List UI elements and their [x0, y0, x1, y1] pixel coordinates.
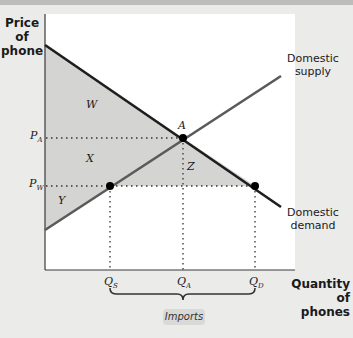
price-pa-label: PA	[30, 129, 42, 144]
quantity-qd-label: QD	[249, 275, 264, 290]
point-a	[179, 134, 187, 142]
y-axis-title-line1: Price of	[1, 16, 43, 44]
area-z-label: Z	[187, 160, 195, 173]
imports-label: Imports	[163, 309, 205, 325]
area-w-label: W	[86, 98, 97, 111]
x-axis-title-line1: Quantity of	[280, 277, 350, 305]
qd-sub: D	[258, 282, 264, 290]
price-pw-label: PW	[29, 177, 44, 192]
qa-sub: A	[186, 282, 191, 290]
qd-main: Q	[249, 275, 258, 288]
x-axis-title-line2: phones	[280, 305, 350, 319]
supply-label-line1: Domestic	[283, 52, 343, 65]
y-axis-title-line2: phone	[1, 44, 43, 58]
demand-curve-label: Domestic demand	[283, 206, 343, 232]
area-y-label: Y	[58, 194, 65, 207]
area-x-label: X	[86, 152, 94, 165]
qa-main: Q	[177, 275, 186, 288]
quantity-qs-label: QS	[104, 275, 118, 290]
x-axis-title: Quantity of phones	[280, 277, 350, 319]
qs-sub: S	[113, 282, 118, 290]
qs-main: Q	[104, 275, 113, 288]
point-qs	[106, 182, 114, 190]
point-qd	[251, 182, 259, 190]
quantity-qa-label: QA	[177, 275, 191, 290]
point-a-label: A	[178, 119, 186, 132]
supply-curve-label: Domestic supply	[283, 52, 343, 78]
supply-label-line2: supply	[283, 65, 343, 78]
y-axis-title: Price of phone	[1, 16, 43, 58]
demand-label-line1: Domestic	[283, 206, 343, 219]
pw-sub: W	[36, 184, 43, 192]
demand-label-line2: demand	[283, 219, 343, 232]
pa-sub: A	[37, 136, 42, 144]
